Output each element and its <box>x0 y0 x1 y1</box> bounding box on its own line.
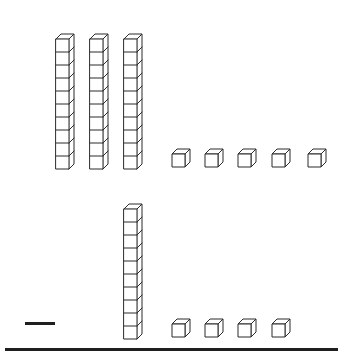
minus-sign-icon <box>25 322 55 325</box>
base-ten-blocks-worksheet: Base ten blocks subtraction problem <box>0 0 354 362</box>
tens-rod <box>123 203 143 344</box>
answer-line <box>5 348 338 351</box>
unit-cube <box>238 319 251 332</box>
subtrahend-row <box>0 0 354 362</box>
unit-cube <box>172 319 185 332</box>
unit-cube <box>272 319 285 332</box>
unit-cube <box>205 319 218 332</box>
